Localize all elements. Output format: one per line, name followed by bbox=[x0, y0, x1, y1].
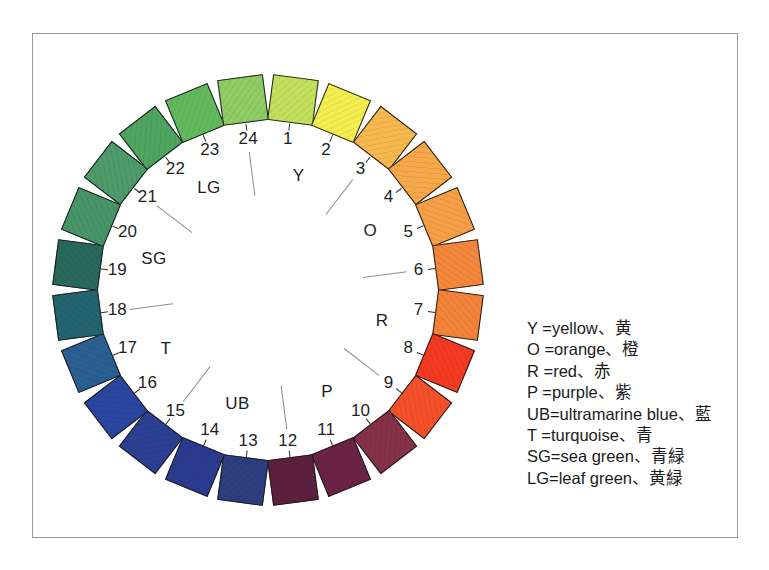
swatch-paper-grain bbox=[268, 75, 317, 124]
legend-entry: O =orange、橙 bbox=[527, 339, 712, 360]
swatch-number-8: 8 bbox=[404, 338, 414, 358]
hue-group-label-t: T bbox=[160, 339, 171, 359]
hue-group-label-o: O bbox=[363, 221, 377, 241]
legend-entry: R =red、赤 bbox=[527, 361, 712, 382]
swatch-number-23: 23 bbox=[200, 140, 219, 160]
swatch-number-15: 15 bbox=[166, 401, 185, 421]
hue-group-label-p: P bbox=[321, 382, 333, 402]
swatch-paper-grain bbox=[218, 75, 267, 124]
swatch-number-12: 12 bbox=[278, 431, 297, 451]
swatch-number-14: 14 bbox=[200, 420, 219, 440]
swatch-paper-grain bbox=[434, 240, 483, 289]
legend-entry: LG=leaf green、黄緑 bbox=[527, 468, 712, 489]
legend: Y =yellow、黄O =orange、橙R =red、赤P =purple、… bbox=[527, 318, 712, 489]
swatch-number-11: 11 bbox=[317, 420, 335, 440]
color-swatch-18[interactable] bbox=[52, 289, 104, 341]
swatch-paper-grain bbox=[53, 290, 102, 339]
color-swatch-1[interactable] bbox=[267, 74, 319, 126]
swatch-number-22: 22 bbox=[166, 159, 185, 179]
swatch-number-24: 24 bbox=[239, 129, 258, 149]
swatch-number-6: 6 bbox=[414, 260, 424, 280]
hue-group-label-ub: UB bbox=[225, 394, 249, 414]
legend-entry: T =turquoise、青 bbox=[527, 425, 712, 446]
swatch-number-2: 2 bbox=[321, 140, 331, 160]
legend-entry: P =purple、紫 bbox=[527, 382, 712, 403]
swatch-number-13: 13 bbox=[239, 431, 258, 451]
color-swatch-24[interactable] bbox=[217, 74, 269, 126]
swatch-number-16: 16 bbox=[138, 373, 157, 393]
swatch-number-10: 10 bbox=[351, 401, 370, 421]
swatch-paper-grain bbox=[268, 456, 317, 505]
swatch-number-7: 7 bbox=[414, 300, 424, 320]
color-swatch-6[interactable] bbox=[433, 239, 485, 291]
hue-group-label-sg: SG bbox=[141, 249, 166, 269]
color-swatch-7[interactable] bbox=[433, 289, 485, 341]
swatch-number-5: 5 bbox=[404, 222, 414, 242]
swatch-number-20: 20 bbox=[118, 222, 137, 242]
swatch-paper-grain bbox=[218, 456, 267, 505]
swatch-number-19: 19 bbox=[108, 260, 127, 280]
color-swatch-13[interactable] bbox=[217, 455, 269, 507]
hue-group-label-r: R bbox=[376, 311, 389, 331]
color-swatch-19[interactable] bbox=[52, 239, 104, 291]
swatch-number-3: 3 bbox=[356, 159, 366, 179]
legend-entry: UB=ultramarine blue、藍 bbox=[527, 404, 712, 425]
color-wheel-figure: YORPUBTSGLG12345678910111213141516171819… bbox=[0, 0, 769, 570]
swatch-paper-grain bbox=[53, 240, 102, 289]
color-swatch-12[interactable] bbox=[267, 455, 319, 507]
swatch-number-9: 9 bbox=[384, 373, 394, 393]
swatch-paper-grain bbox=[434, 290, 483, 339]
hue-group-label-y: Y bbox=[293, 166, 305, 186]
swatch-number-17: 17 bbox=[118, 338, 137, 358]
swatch-number-18: 18 bbox=[108, 300, 127, 320]
legend-entry: Y =yellow、黄 bbox=[527, 318, 712, 339]
legend-entry: SG=sea green、青緑 bbox=[527, 446, 712, 467]
swatch-number-21: 21 bbox=[138, 187, 157, 207]
swatch-number-4: 4 bbox=[384, 187, 394, 207]
swatch-number-1: 1 bbox=[283, 129, 293, 149]
hue-group-label-lg: LG bbox=[197, 178, 220, 198]
